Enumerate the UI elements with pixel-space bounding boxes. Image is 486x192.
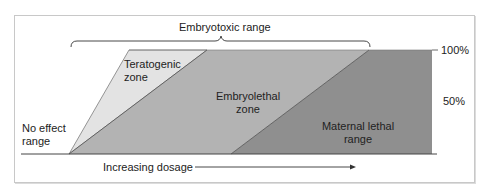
no-effect-range-label: No effect range [22, 122, 66, 148]
embryotoxic-brace [71, 36, 370, 47]
maternal-lethal-label: Maternal lethal range [313, 120, 403, 146]
y-tick-50-label: 50% [443, 95, 465, 108]
arrow-head-icon [350, 165, 356, 170]
embryolethal-zone-label: Embryolethal zone [208, 90, 288, 116]
increasing-dosage-label: Increasing dosage [103, 161, 193, 174]
teratogenic-zone-label: Teratogenic zone [124, 58, 181, 84]
embryotoxic-range-label: Embryotoxic range [179, 21, 271, 34]
y-tick-100-label: 100% [441, 44, 469, 57]
